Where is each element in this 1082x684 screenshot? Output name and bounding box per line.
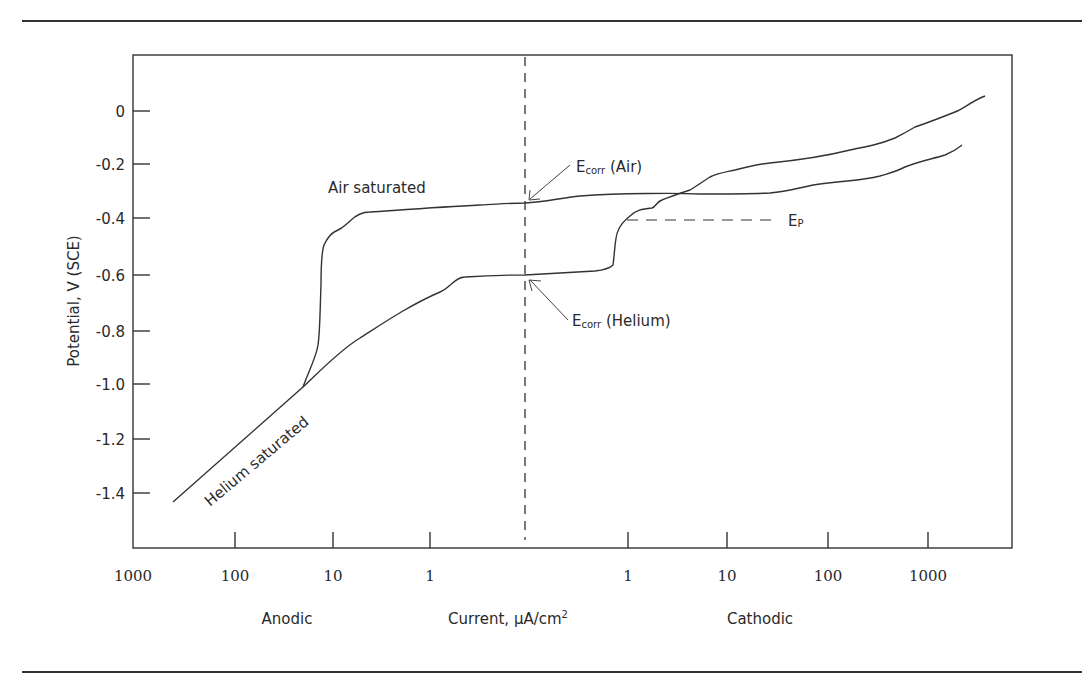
- xtick-label: 1000: [114, 567, 152, 585]
- ytick-label: -0.8: [96, 323, 125, 341]
- ytick-label: -1.0: [96, 376, 125, 394]
- xtick-label: 100: [221, 567, 250, 585]
- air-saturated-label: Air saturated: [328, 179, 426, 197]
- xtick-label: 1000: [909, 567, 947, 585]
- x-axis-ticks: [235, 532, 928, 548]
- x-axis-anodic-label: Anodic: [262, 610, 313, 628]
- xtick-label: 10: [717, 567, 736, 585]
- ytick-label: -1.2: [96, 431, 125, 449]
- ytick-label: -0.4: [96, 210, 125, 228]
- ytick-label: -1.4: [96, 485, 125, 503]
- x-axis-cathodic-label: Cathodic: [727, 610, 793, 628]
- xtick-label: 10: [323, 567, 342, 585]
- ecorr-air-arrow: [529, 165, 570, 200]
- ytick-label: 0: [115, 103, 125, 121]
- ytick-label: -0.6: [96, 267, 125, 285]
- helium-saturated-curve: [173, 96, 985, 502]
- x-axis-title: Current, μA/cm2: [448, 609, 568, 628]
- ytick-label: -0.2: [96, 156, 125, 174]
- xtick-label: 1: [623, 567, 633, 585]
- ecorr-air-label: Ecorr (Air): [576, 158, 642, 176]
- plot-frame: [133, 55, 1012, 548]
- x-axis-tick-labels: 1000 100 10 1 1 10 100 1000: [114, 567, 947, 585]
- ecorr-helium-arrow: [529, 280, 568, 320]
- y-axis-ticks: [133, 111, 150, 493]
- ecorr-helium-label: Ecorr (Helium): [572, 312, 671, 330]
- xtick-label: 100: [814, 567, 843, 585]
- y-axis-title: Potential, V (SCE): [65, 235, 83, 366]
- ep-label: EP: [788, 212, 804, 230]
- y-axis-tick-labels: 0 -0.2 -0.4 -0.6 -0.8 -1.0 -1.2 -1.4: [96, 103, 125, 503]
- xtick-label: 1: [425, 567, 435, 585]
